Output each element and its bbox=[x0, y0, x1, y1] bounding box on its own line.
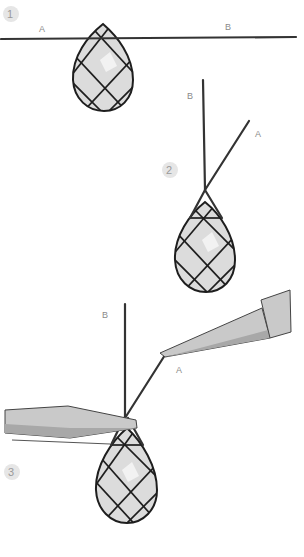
step-3-label-a: A bbox=[176, 365, 182, 375]
step-2-number: 2 bbox=[166, 164, 172, 176]
step-2: 2 B A bbox=[160, 80, 261, 300]
step-3-number: 3 bbox=[8, 466, 14, 478]
wire-icon bbox=[190, 80, 249, 218]
step-1-number: 1 bbox=[7, 8, 13, 20]
bead-icon bbox=[160, 202, 250, 300]
step-1-label-b: B bbox=[225, 22, 231, 32]
step-1-label-a: A bbox=[39, 24, 45, 34]
step-3-label-b: B bbox=[102, 310, 108, 320]
step-3: 3 B A bbox=[4, 290, 291, 530]
step-1: 1 A B bbox=[1, 6, 296, 120]
pliers-icon bbox=[160, 290, 291, 357]
bead-icon bbox=[85, 418, 170, 530]
step-2-label-a: A bbox=[255, 129, 261, 139]
wire-icon bbox=[125, 304, 165, 418]
bead-icon bbox=[60, 20, 150, 120]
wire-icon bbox=[1, 37, 296, 39]
instruction-diagram: 1 A B 2 B A bbox=[0, 0, 304, 557]
step-2-label-b: B bbox=[187, 91, 193, 101]
